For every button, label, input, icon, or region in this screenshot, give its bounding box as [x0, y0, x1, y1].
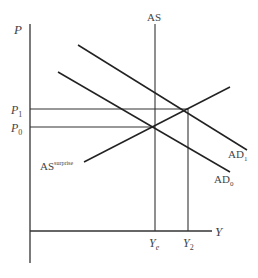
as-surprise-label: ASsurprise — [40, 160, 73, 172]
price-axis-label: P — [13, 22, 22, 37]
p0-label: P0 — [10, 121, 22, 137]
as-vertical-label: AS — [147, 11, 161, 23]
as-surprise-curve — [84, 87, 230, 162]
as-ad-diagram: P Y AS P1 P0 Ye Y2 AD1 AD0 ASsurprise — [0, 0, 258, 278]
ad0-curve — [58, 72, 230, 172]
p1-label: P1 — [10, 103, 22, 119]
output-axis-label: Y — [215, 224, 224, 239]
ye-label: Ye — [149, 236, 160, 252]
ad1-label: AD1 — [228, 148, 248, 163]
ad0-label: AD0 — [214, 173, 234, 188]
y2-label: Y2 — [183, 236, 194, 252]
